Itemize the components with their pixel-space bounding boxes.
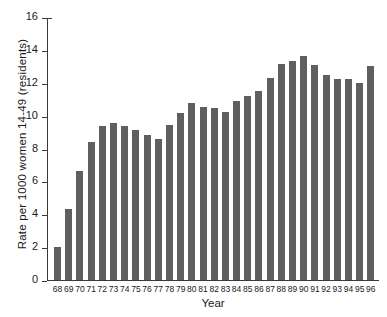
plot-area: 0246810121416 xyxy=(47,18,379,281)
x-axis-tick-label: 70 xyxy=(74,284,85,294)
x-axis-tick-label: 71 xyxy=(86,284,97,294)
bar-slot xyxy=(97,18,108,280)
bar-series xyxy=(48,18,379,280)
x-axis-tick-label: 73 xyxy=(108,284,119,294)
x-axis-tick-label: 72 xyxy=(97,284,108,294)
y-axis-tick: 16 xyxy=(42,18,47,19)
bar xyxy=(222,112,229,280)
bar xyxy=(76,171,83,280)
bar-slot xyxy=(298,18,309,280)
y-axis-tick-label: 8 xyxy=(32,142,38,154)
x-axis-tick-label: 75 xyxy=(130,284,141,294)
bar-slot xyxy=(130,18,141,280)
x-axis-tick-label: 89 xyxy=(287,284,298,294)
bar xyxy=(244,96,251,280)
bar xyxy=(121,126,128,280)
bar-slot xyxy=(52,18,63,280)
bar xyxy=(345,79,352,280)
bar xyxy=(300,56,307,280)
bar-slot xyxy=(332,18,343,280)
bar-slot xyxy=(321,18,332,280)
bar xyxy=(166,125,173,280)
bar xyxy=(132,130,139,280)
x-axis-tick-label: 74 xyxy=(119,284,130,294)
x-axis-tick-label: 84 xyxy=(231,284,242,294)
x-axis-tick-label: 79 xyxy=(175,284,186,294)
bar-slot xyxy=(365,18,376,280)
y-axis-tick: 14 xyxy=(42,51,47,52)
bar-chart: Rate per 1000 women 14-49 (residents) 02… xyxy=(0,0,387,317)
bar xyxy=(211,108,218,280)
bar xyxy=(54,247,61,280)
bar-slot xyxy=(108,18,119,280)
bar xyxy=(88,142,95,280)
x-axis-ticks: 6869707172737475767778798081828384858687… xyxy=(48,284,380,294)
x-axis-tick-label: 94 xyxy=(343,284,354,294)
x-axis-tick-label: 91 xyxy=(309,284,320,294)
bar xyxy=(233,101,240,280)
bar xyxy=(200,107,207,280)
x-axis-tick-label: 81 xyxy=(197,284,208,294)
bar-slot xyxy=(119,18,130,280)
x-axis-tick-label: 78 xyxy=(164,284,175,294)
y-axis-tick: 6 xyxy=(42,182,47,183)
bar xyxy=(334,79,341,280)
y-axis-tick-label: 12 xyxy=(26,76,38,88)
bar-slot xyxy=(220,18,231,280)
x-axis-tick-label: 69 xyxy=(63,284,74,294)
x-axis-tick-label: 82 xyxy=(209,284,220,294)
x-axis-tick-label: 83 xyxy=(220,284,231,294)
bar xyxy=(110,123,117,280)
bar-slot xyxy=(63,18,74,280)
bar-slot xyxy=(164,18,175,280)
bar-slot xyxy=(242,18,253,280)
bar xyxy=(356,83,363,280)
bar-slot xyxy=(175,18,186,280)
bar xyxy=(99,126,106,281)
x-axis-tick-label: 77 xyxy=(153,284,164,294)
y-axis-tick: 10 xyxy=(42,117,47,118)
bar xyxy=(155,139,162,280)
y-axis-tick-label: 2 xyxy=(32,240,38,252)
bar xyxy=(323,75,330,280)
x-axis-line xyxy=(47,280,379,281)
bar xyxy=(267,78,274,280)
bar xyxy=(255,91,262,280)
x-axis-tick-label: 88 xyxy=(276,284,287,294)
bar-slot xyxy=(343,18,354,280)
y-axis-tick: 4 xyxy=(42,215,47,216)
y-axis-tick-label: 6 xyxy=(32,174,38,186)
y-axis-tick-label: 16 xyxy=(26,10,38,22)
x-axis-tick-label: 80 xyxy=(186,284,197,294)
x-axis-tick-label: 85 xyxy=(242,284,253,294)
x-axis-tick-label: 95 xyxy=(354,284,365,294)
bar xyxy=(289,61,296,280)
bar-slot xyxy=(209,18,220,280)
bar-slot xyxy=(287,18,298,280)
bar xyxy=(177,113,184,280)
x-axis-title: Year xyxy=(47,297,379,309)
bar xyxy=(311,65,318,280)
y-axis-tick-label: 0 xyxy=(32,273,38,285)
bar-slot xyxy=(197,18,208,280)
bar-slot xyxy=(142,18,153,280)
bar-slot xyxy=(265,18,276,280)
x-axis-tick-label: 92 xyxy=(321,284,332,294)
y-axis-tick-label: 4 xyxy=(32,207,38,219)
bar-slot xyxy=(231,18,242,280)
x-axis-tick-label: 87 xyxy=(265,284,276,294)
y-axis-tick: 8 xyxy=(42,150,47,151)
x-axis-tick-label: 76 xyxy=(142,284,153,294)
bar-slot xyxy=(276,18,287,280)
x-axis-tick-label: 86 xyxy=(253,284,264,294)
bar-slot xyxy=(86,18,97,280)
x-axis-tick-label: 90 xyxy=(298,284,309,294)
bar-slot xyxy=(253,18,264,280)
bar-slot xyxy=(186,18,197,280)
bar xyxy=(188,103,195,280)
bar xyxy=(144,135,151,280)
bar xyxy=(65,209,72,281)
y-axis-tick: 0 xyxy=(42,281,47,282)
x-axis-tick-label: 96 xyxy=(365,284,376,294)
y-axis-tick-label: 10 xyxy=(26,109,38,121)
